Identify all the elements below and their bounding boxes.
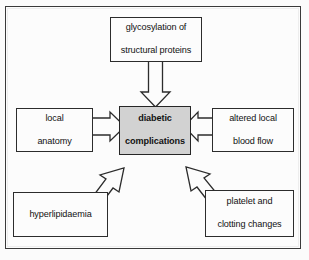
node-diabetic-complications-label: diabeticcomplications xyxy=(119,113,191,148)
node-hyperlipidaemia: hyperlipidaemia xyxy=(13,192,108,237)
arrow-top-to-center xyxy=(141,60,170,107)
node-local-anatomy: localanatomy xyxy=(16,108,93,152)
node-platelet-and-clotting-changes: platelet andclotting changes xyxy=(205,190,294,237)
node-platelet-and-clotting-changes-label: platelet andclotting changes xyxy=(211,196,287,231)
node-altered-local-blood-flow: altered localblood flow xyxy=(212,108,294,152)
node-local-anatomy-label: localanatomy xyxy=(31,113,77,148)
node-hyperlipidaemia-label: hyperlipidaemia xyxy=(26,209,94,221)
node-diabetic-complications: diabeticcomplications xyxy=(119,106,191,155)
node-glycosylation: glycosylation ofstructural proteins xyxy=(110,17,202,62)
node-altered-local-blood-flow-label: altered localblood flow xyxy=(223,113,283,148)
node-glycosylation-label: glycosylation ofstructural proteins xyxy=(115,22,197,57)
diagram-figure: glycosylation ofstructural proteins loca… xyxy=(0,0,309,260)
